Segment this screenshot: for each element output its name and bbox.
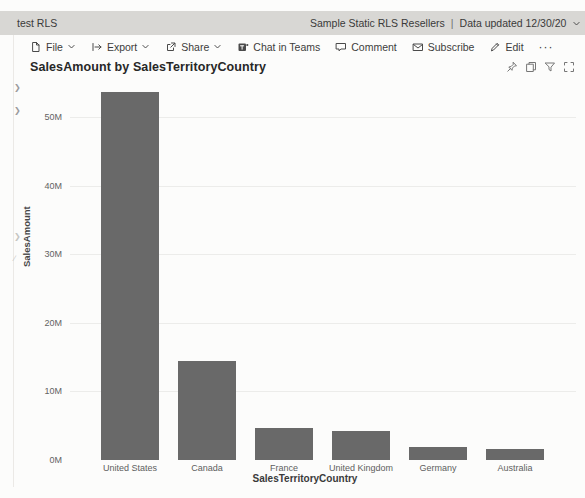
expand-pane-chevron-icon[interactable]: ❯ [14,107,21,115]
focus-mode-icon[interactable] [563,59,575,77]
export-button[interactable]: Export [91,41,150,53]
toolbar-item-label: Edit [505,41,523,53]
toolbar-item-label: Subscribe [428,41,475,53]
file-button[interactable]: File [30,41,76,53]
expand-pane-chevron-icon[interactable]: ∕ [14,255,15,263]
y-axis-tick-label: 10M [36,386,62,396]
chevron-down-icon [141,42,150,51]
teams-icon [237,41,249,53]
bar-united-kingdom[interactable] [332,431,390,460]
toolbar-item-label: Export [107,41,137,53]
toolbar-item-label: File [46,41,63,53]
y-axis-tick-label: 50M [36,112,62,122]
visual-title: SalesAmount by SalesTerritoryCountry [30,60,266,74]
bar-canada[interactable] [178,361,236,460]
power-bi-report-view: test RLS Sample Static RLS Resellers | D… [0,0,585,498]
chevron-down-icon [67,42,76,51]
share-button[interactable]: Share [165,41,222,53]
chevron-down-icon[interactable] [572,19,581,28]
toolbar-item-label: Chat in Teams [253,41,320,53]
pencil-icon [489,41,501,53]
bar-germany[interactable] [409,447,467,460]
visual-header-icons [506,59,575,77]
x-axis-title: SalesTerritoryCountry [180,473,430,484]
file-icon [30,41,42,53]
report-header: Sample Static RLS Resellers | Data updat… [310,17,581,29]
y-axis-tick-label: 0M [36,455,62,465]
data-updated-label: Data updated 12/30/20 [460,17,567,29]
chevron-down-icon [213,42,222,51]
share-icon [165,41,177,53]
expand-pane-chevron-icon[interactable]: ❯ [14,84,21,92]
export-icon [91,41,103,53]
bar-france[interactable] [255,428,313,460]
pin-icon[interactable] [506,59,518,77]
envelope-icon [412,41,424,53]
chat-in-teams-button[interactable]: Chat in Teams [237,41,320,53]
comment-icon [335,41,347,53]
more-options-button[interactable]: ··· [539,40,554,54]
report-toolbar: FileExportShareChat in TeamsCommentSubsc… [0,35,585,58]
y-axis-tick-label: 30M [36,249,62,259]
subscribe-button[interactable]: Subscribe [412,41,475,53]
header-separator: | [451,17,454,29]
bar-australia[interactable] [486,449,544,460]
y-axis-tick-label: 20M [36,318,62,328]
x-axis-category-label: Australia [470,463,560,473]
y-axis-tick-label: 40M [36,181,62,191]
filter-icon[interactable] [544,59,556,77]
toolbar-item-label: Comment [351,41,397,53]
toolbar-item-label: Share [181,41,209,53]
edit-button[interactable]: Edit [489,41,523,53]
bar-united-states[interactable] [101,92,159,460]
y-axis-title: SalesAmount [21,206,32,267]
copy-icon[interactable] [525,59,537,77]
comment-button[interactable]: Comment [335,41,397,53]
report-title: Sample Static RLS Resellers [310,17,445,29]
service-top-bar: test RLS Sample Static RLS Resellers | D… [0,11,585,35]
app-title: test RLS [17,17,57,29]
